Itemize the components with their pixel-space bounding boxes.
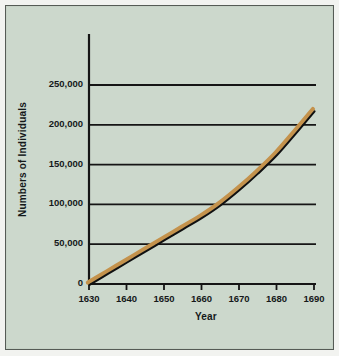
plot-area (6, 6, 335, 351)
data-line-band (88, 109, 313, 283)
gridlines (89, 85, 316, 284)
data-line (90, 111, 315, 285)
figure-frame: Numbers of Individuals Year 050,000100,0… (5, 5, 334, 350)
